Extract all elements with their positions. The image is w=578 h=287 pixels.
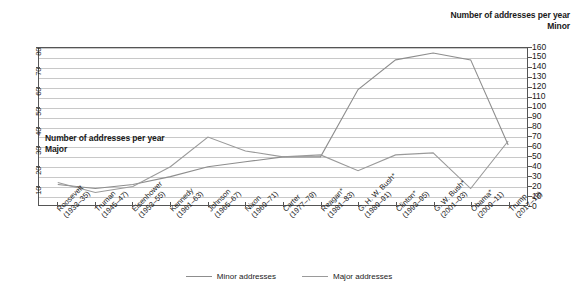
left-axis-title-line1: Number of addresses per year — [45, 133, 165, 144]
right-axis-title-line1: Number of addresses per year — [450, 10, 570, 21]
left-axis-title: Number of addresses per year Major — [45, 133, 165, 155]
left-axis-ticks: 8070605040302010 — [20, 41, 40, 213]
right-axis-tick-mark — [528, 77, 532, 78]
right-axis-tick-mark — [528, 176, 532, 177]
left-axis-tick-label: 30 — [34, 147, 43, 165]
right-axis-tick-label: 50 — [532, 152, 541, 161]
left-axis-tick-mark — [36, 186, 40, 187]
right-axis-tick-label: 70 — [532, 132, 541, 141]
right-axis-tick-mark — [528, 97, 532, 98]
right-axis-tick-mark — [528, 117, 532, 118]
legend-swatch-major-icon — [302, 276, 328, 277]
legend-label-major: Major addresses — [333, 272, 392, 281]
legend-item-major: Major addresses — [302, 272, 392, 281]
right-axis-tick-label: 90 — [532, 112, 541, 121]
left-axis-tick-label: 40 — [34, 127, 43, 145]
plot-area — [38, 47, 528, 206]
left-axis-tick-label: 10 — [34, 187, 43, 205]
right-axis-tick-label: 60 — [532, 142, 541, 151]
right-axis-tick-mark — [528, 146, 532, 147]
right-axis-tick-mark — [528, 57, 532, 58]
right-axis-tick-label: 140 — [532, 62, 546, 71]
left-axis-tick-mark — [36, 127, 40, 128]
right-axis-tick-label: 30 — [532, 172, 541, 181]
right-axis-tick-mark — [528, 67, 532, 68]
right-axis-tick-label: 110 — [532, 92, 546, 101]
chart-legend: Minor addresses Major addresses — [0, 272, 578, 281]
left-axis-tick-label: 70 — [34, 67, 43, 85]
left-axis-tick-label: 60 — [34, 87, 43, 105]
x-axis-labels: Roosevelt(1933–35)Truman(1945–47)Eisenho… — [0, 207, 578, 269]
right-axis-tick-mark — [528, 87, 532, 88]
left-axis-tick-mark — [36, 146, 40, 147]
right-axis-tick-label: 160 — [532, 43, 546, 52]
left-axis-tick-mark — [36, 107, 40, 108]
left-axis-tick-label: 50 — [34, 107, 43, 125]
right-axis-tick-mark — [528, 136, 532, 137]
legend-label-minor: Minor addresses — [217, 272, 276, 281]
right-axis-title: Number of addresses per year Minor — [450, 10, 570, 32]
series-lines — [39, 48, 527, 206]
left-axis-tick-mark — [36, 47, 40, 48]
chart-container: Number of addresses per year Minor 80706… — [0, 0, 578, 287]
series-line-minor — [58, 53, 508, 189]
right-axis-tick-label: 120 — [532, 82, 546, 91]
right-axis-tick-label: 40 — [532, 162, 541, 171]
right-axis-tick-label: 130 — [532, 72, 546, 81]
left-axis-title-line2: Major — [45, 144, 165, 155]
legend-swatch-minor-icon — [186, 276, 212, 277]
right-axis-tick-mark — [528, 156, 532, 157]
right-axis-tick-mark — [528, 127, 532, 128]
left-axis-tick-mark — [36, 67, 40, 68]
right-axis-tick-mark — [528, 166, 532, 167]
left-axis-tick-mark — [36, 166, 40, 167]
left-axis-tick-mark — [36, 87, 40, 88]
right-axis-tick-mark — [528, 47, 532, 48]
right-axis-tick-mark — [528, 107, 532, 108]
right-axis-tick-label: 100 — [532, 102, 546, 111]
legend-item-minor: Minor addresses — [186, 272, 276, 281]
right-axis-tick-label: 150 — [532, 52, 546, 61]
right-axis-title-line2: Minor — [450, 21, 570, 32]
left-axis-tick-label: 20 — [34, 167, 43, 185]
left-axis-tick-label: 80 — [34, 48, 43, 66]
right-axis-tick-label: 80 — [532, 122, 541, 131]
